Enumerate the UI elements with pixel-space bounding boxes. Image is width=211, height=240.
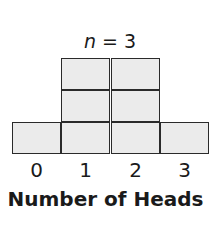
x-tick-2: 2 (111, 158, 160, 182)
bar-unit-1-1 (61, 122, 110, 154)
bar-unit-2-3 (111, 58, 160, 90)
bar-unit-3-1 (160, 122, 209, 154)
bar-unit-1-2 (61, 90, 110, 122)
x-tick-1: 1 (61, 158, 110, 182)
bar-unit-2-2 (111, 90, 160, 122)
x-tick-3: 3 (160, 158, 209, 182)
title-variable: n (84, 30, 96, 52)
chart-title: n = 3 (60, 30, 160, 52)
x-tick-0: 0 (12, 158, 61, 182)
title-value: = 3 (96, 30, 136, 52)
x-axis-label: Number of Heads (0, 187, 211, 211)
bar-unit-2-1 (111, 122, 160, 154)
bar-unit-1-3 (61, 58, 110, 90)
bar-unit-0-1 (12, 122, 61, 154)
